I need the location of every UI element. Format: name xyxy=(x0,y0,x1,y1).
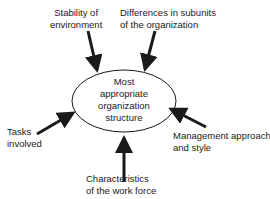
center-line: organization xyxy=(74,100,174,112)
factor-line: Tasks xyxy=(7,126,42,138)
factor-line: Differences in subunits xyxy=(120,7,216,19)
factor-line: environment xyxy=(50,19,102,31)
factor-management: Management approach and style xyxy=(173,130,270,154)
factor-line: and style xyxy=(173,142,270,154)
center-node: Most appropriate organization structure xyxy=(74,76,174,124)
arrow-subunits xyxy=(145,31,155,69)
center-line: structure xyxy=(74,112,174,124)
center-line: Most xyxy=(74,76,174,88)
factor-line: of the work force xyxy=(86,185,156,197)
arrow-management xyxy=(171,109,206,127)
arrow-stability xyxy=(88,31,97,70)
factor-workforce: Characteristics of the work force xyxy=(86,173,156,197)
factor-tasks: Tasks involved xyxy=(7,126,42,150)
arrow-tasks xyxy=(37,113,73,134)
factor-subunits: Differences in subunits of the organizat… xyxy=(120,7,216,31)
factor-line: involved xyxy=(7,138,42,150)
factor-line: Stability of xyxy=(50,7,102,19)
factor-stability: Stability of environment xyxy=(50,7,102,31)
center-line: appropriate xyxy=(74,88,174,100)
factor-line: Characteristics xyxy=(86,173,156,185)
factor-line: of the organization xyxy=(120,19,216,31)
factor-line: Management approach xyxy=(173,130,270,142)
